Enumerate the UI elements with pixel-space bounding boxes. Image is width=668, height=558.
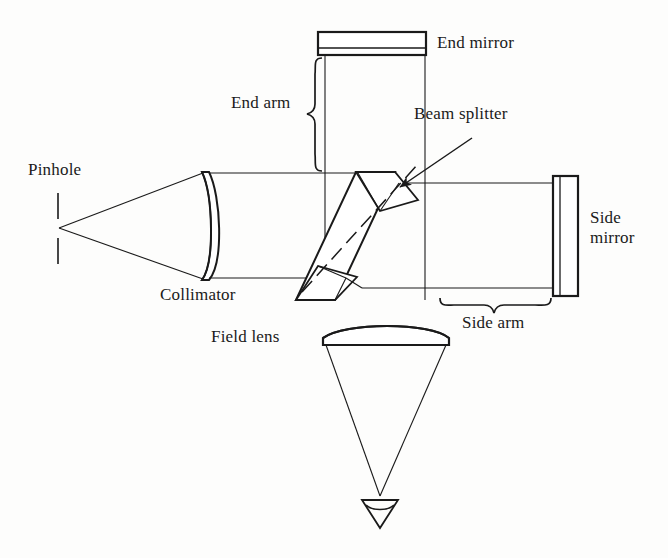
label-end-mirror: End mirror [437, 33, 514, 53]
end-mirror [318, 32, 426, 55]
label-beam-splitter: Beam splitter [414, 104, 508, 124]
label-side-arm: Side arm [462, 313, 525, 333]
diagram-canvas [0, 0, 668, 558]
optical-diagram: Pinhole Collimator End mirror End arm Be… [0, 0, 668, 558]
label-pinhole: Pinhole [28, 160, 81, 180]
label-side-mirror: Side mirror [590, 208, 635, 248]
label-collimator: Collimator [160, 285, 236, 305]
end-arm-brace [307, 58, 322, 171]
label-field-lens: Field lens [211, 327, 280, 347]
output-cone-beam [326, 345, 446, 496]
side-arm-brace [440, 298, 551, 313]
label-end-arm: End arm [231, 93, 290, 113]
beam-splitter-leader [400, 138, 472, 187]
eye-icon [362, 500, 398, 528]
beam-splitter [296, 164, 418, 300]
source-cone-beam [59, 173, 203, 279]
collimator-lens [202, 172, 219, 280]
field-lens [323, 326, 449, 345]
side-mirror [553, 176, 578, 296]
